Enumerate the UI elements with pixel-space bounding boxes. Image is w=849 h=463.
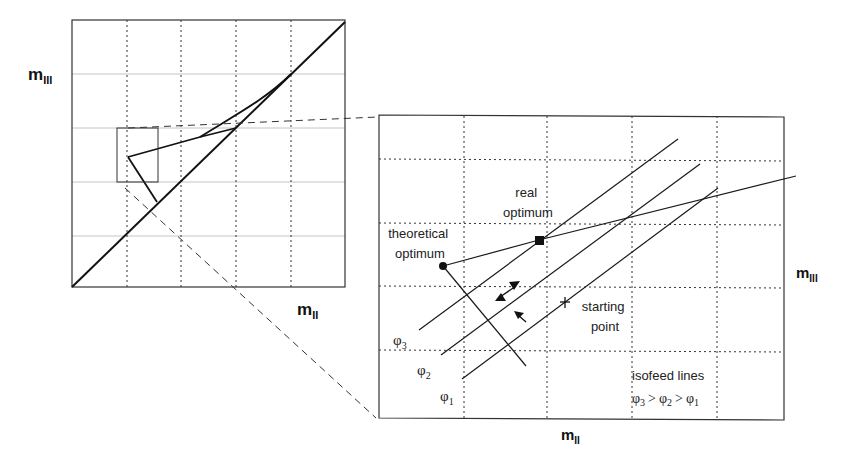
arrow-icon — [514, 311, 526, 322]
real-optimum-marker — [535, 236, 544, 245]
detail-x-axis-label: mII — [561, 426, 580, 446]
overview-y-axis-label: mIII — [28, 65, 52, 86]
detail-panel: real optimum theoretical optimum startin… — [379, 115, 818, 446]
isofeed-line-phi3 — [419, 139, 678, 330]
detail-y-axis-label: mIII — [796, 264, 818, 284]
overview-diagonal-line — [72, 22, 345, 287]
overview-trajectory-down — [128, 157, 157, 202]
isofeed-line-phi1 — [462, 188, 718, 379]
starting-point-marker — [560, 297, 570, 308]
overview-panel: mIII mII — [28, 20, 378, 418]
double-arrow-icon — [495, 281, 520, 301]
phi2-label: φ2 — [417, 362, 431, 381]
isofeed-line-phi2 — [441, 164, 700, 355]
zoom-connector-top — [128, 117, 378, 128]
starting-point-label: starting point — [582, 299, 628, 334]
zoom-connector-bottom — [125, 188, 376, 418]
diagram-canvas: mIII mII — [0, 0, 849, 463]
isofeed-title: isofeed lines — [632, 368, 705, 383]
phi1-label: φ1 — [440, 388, 454, 407]
real-optimum-label: real optimum — [503, 185, 553, 220]
phi3-label: φ3 — [393, 332, 407, 351]
theoretical-optimum-label: theoretical optimum — [388, 226, 452, 261]
isofeed-order: φ3>φ2>φ1 — [632, 391, 699, 408]
theoretical-optimum-marker — [439, 262, 447, 270]
optimization-path — [443, 176, 796, 266]
overview-x-axis-label: mII — [297, 300, 318, 321]
